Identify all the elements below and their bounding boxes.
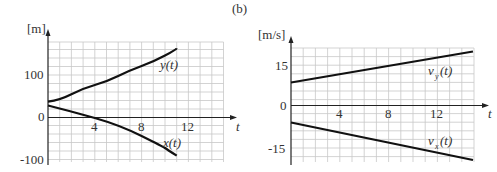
left-ytick-100: 100 bbox=[24, 67, 44, 82]
right-ytick-neg15: -15 bbox=[268, 141, 285, 156]
left-unit-label: [m] bbox=[27, 21, 46, 36]
svg-text:v: v bbox=[428, 63, 434, 78]
right-t-label: t bbox=[488, 106, 492, 121]
right-xtick-8: 8 bbox=[385, 106, 392, 121]
right-xtick-4: 4 bbox=[336, 106, 343, 121]
svg-text:v: v bbox=[428, 133, 434, 148]
left-y-axis-arrow-icon bbox=[46, 29, 51, 36]
left-ytick-0: 0 bbox=[38, 109, 45, 124]
left-grid bbox=[48, 42, 224, 162]
left-xtick-8: 8 bbox=[138, 119, 145, 134]
svg-text:y: y bbox=[434, 72, 439, 81]
position-chart: [m] 100 0 -100 4 8 12 t y(t) x(t) bbox=[20, 21, 240, 167]
velocity-chart: [m/s] 15 0 -15 4 8 12 t v y (t) v x (t) bbox=[258, 27, 492, 165]
svg-text:x: x bbox=[434, 142, 439, 151]
x-of-t-label: x(t) bbox=[162, 135, 181, 150]
right-y-axis-arrow-icon bbox=[289, 36, 294, 43]
y-of-t-label: y(t) bbox=[158, 57, 178, 72]
right-xtick-12: 12 bbox=[430, 106, 443, 121]
left-t-label: t bbox=[236, 119, 240, 134]
left-xtick-4: 4 bbox=[91, 119, 98, 134]
left-xtick-12: 12 bbox=[181, 119, 194, 134]
svg-text:(t): (t) bbox=[440, 133, 452, 148]
vy-label: v y (t) bbox=[428, 63, 452, 81]
panel-label-b: (b) bbox=[232, 1, 247, 16]
right-ytick-0: 0 bbox=[280, 98, 287, 113]
svg-text:(t): (t) bbox=[440, 63, 452, 78]
left-ytick-neg100: -100 bbox=[20, 152, 44, 167]
x-of-t-curve bbox=[48, 106, 177, 156]
right-unit-label: [m/s] bbox=[258, 27, 285, 42]
right-ytick-15: 15 bbox=[275, 58, 288, 73]
figure: [m] 100 0 -100 4 8 12 t y(t) x(t) (b) bbox=[0, 0, 497, 172]
